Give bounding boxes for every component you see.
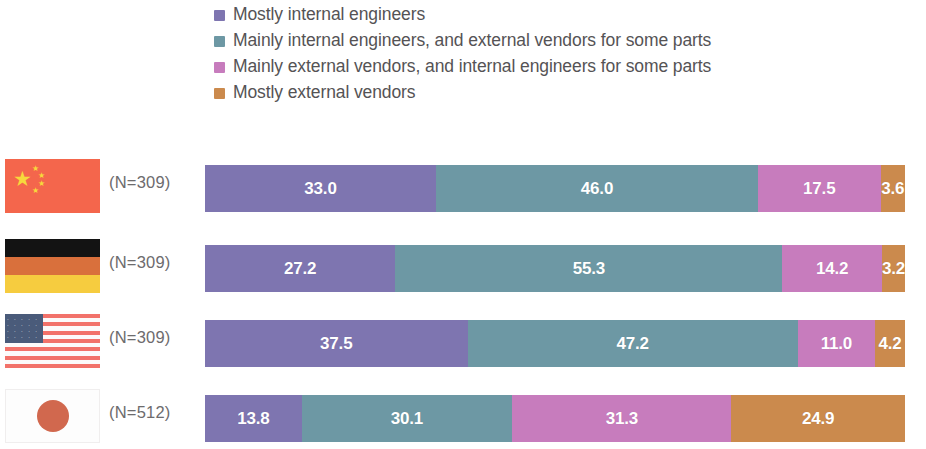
chart-row-japan: (N=512) 13.8 30.1 31.3 24.9 <box>0 387 926 443</box>
bar-segment-mostly-external: 24.9 <box>731 395 905 442</box>
bar-segment-value: 55.3 <box>573 259 605 279</box>
japan-flag-icon <box>5 389 100 443</box>
legend-item-label: Mostly internal engineers <box>233 6 425 24</box>
bar-segment-mostly-internal: 27.2 <box>205 245 395 292</box>
bar-segment-mostly-external: 3.6 <box>881 165 906 212</box>
stacked-bar: 33.0 46.0 17.5 3.6 <box>205 165 905 212</box>
bar-segment-value: 33.0 <box>304 179 336 199</box>
bar-segment-mostly-external: 4.2 <box>875 320 905 367</box>
usa-flag-icon: · · · · · · · · · · · · · · · · · · · · <box>5 314 100 368</box>
legend-item-label: Mainly internal engineers, and external … <box>233 32 711 50</box>
bar-segment-value: 24.9 <box>802 409 834 429</box>
square-swatch-icon <box>214 88 225 99</box>
bar-segment-value: 31.3 <box>606 409 638 429</box>
bar-segment-mainly-external: 17.5 <box>758 165 881 212</box>
square-swatch-icon <box>214 62 225 73</box>
sample-size-label: (N=309) <box>109 253 170 272</box>
bar-segment-value: 17.5 <box>803 179 835 199</box>
bar-segment-value: 37.5 <box>320 334 352 354</box>
bar-segment-mainly-internal: 47.2 <box>468 320 798 367</box>
stacked-bar: 27.2 55.3 14.2 3.2 <box>205 245 905 292</box>
bar-segment-mostly-external: 3.2 <box>882 245 905 292</box>
stacked-bar-chart: ★ ★ ★ ★ ★ (N=309) 33.0 46.0 17.5 3.6 <box>0 157 926 449</box>
bar-segment-mostly-internal: 37.5 <box>205 320 468 367</box>
germany-flag-icon <box>5 239 100 293</box>
legend-item-label: Mainly external vendors, and internal en… <box>233 58 711 76</box>
bar-segment-value: 3.2 <box>882 259 905 279</box>
square-swatch-icon <box>214 36 225 47</box>
bar-segment-value: 47.2 <box>617 334 649 354</box>
bar-segment-mostly-internal: 13.8 <box>205 395 302 442</box>
legend-item-mainly-external-vendors: Mainly external vendors, and internal en… <box>214 54 914 80</box>
bar-segment-mainly-external: 31.3 <box>512 395 731 442</box>
bar-segment-mostly-internal: 33.0 <box>205 165 436 212</box>
square-swatch-icon <box>214 10 225 21</box>
chart-legend: Mostly internal engineers Mainly interna… <box>214 2 914 106</box>
stacked-bar: 13.8 30.1 31.3 24.9 <box>205 395 905 442</box>
chart-row-united-states: · · · · · · · · · · · · · · · · · · · · … <box>0 312 926 368</box>
sample-size-label: (N=309) <box>109 173 170 192</box>
bar-segment-value: 11.0 <box>821 334 852 354</box>
bar-segment-mainly-internal: 30.1 <box>302 395 513 442</box>
bar-segment-mainly-external: 11.0 <box>798 320 875 367</box>
bar-segment-value: 13.8 <box>237 409 269 429</box>
stacked-bar: 37.5 47.2 11.0 4.2 <box>205 320 905 367</box>
sample-size-label: (N=512) <box>109 403 170 422</box>
bar-segment-value: 46.0 <box>581 179 613 199</box>
bar-segment-value: 3.6 <box>881 179 904 199</box>
bar-segment-mainly-internal: 46.0 <box>436 165 758 212</box>
bar-segment-value: 27.2 <box>284 259 316 279</box>
bar-segment-mainly-internal: 55.3 <box>395 245 782 292</box>
chart-row-china: ★ ★ ★ ★ ★ (N=309) 33.0 46.0 17.5 3.6 <box>0 157 926 213</box>
china-flag-icon: ★ ★ ★ ★ ★ <box>5 159 100 213</box>
legend-item-mainly-internal-engineers: Mainly internal engineers, and external … <box>214 28 914 54</box>
bar-segment-mainly-external: 14.2 <box>782 245 881 292</box>
bar-segment-value: 30.1 <box>391 409 423 429</box>
legend-item-label: Mostly external vendors <box>233 84 416 102</box>
bar-segment-value: 14.2 <box>816 259 848 279</box>
sample-size-label: (N=309) <box>109 328 170 347</box>
bar-segment-value: 4.2 <box>878 334 901 354</box>
legend-item-mostly-external-vendors: Mostly external vendors <box>214 80 914 106</box>
legend-item-mostly-internal-engineers: Mostly internal engineers <box>214 2 914 28</box>
chart-row-germany: (N=309) 27.2 55.3 14.2 3.2 <box>0 237 926 293</box>
